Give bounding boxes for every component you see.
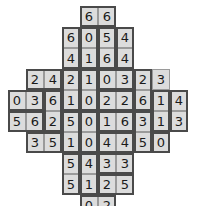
domino-piece xyxy=(98,174,134,195)
domino-piece xyxy=(80,111,98,153)
domino-piece xyxy=(98,153,134,174)
domino-piece xyxy=(62,69,80,111)
domino-piece xyxy=(98,132,134,153)
domino-puzzle: 6660544164242103230361022614562501631335… xyxy=(0,0,199,206)
domino-piece xyxy=(170,90,188,132)
domino-piece xyxy=(152,132,170,153)
domino-piece xyxy=(62,153,80,195)
domino-piece xyxy=(80,27,98,69)
domino-piece xyxy=(80,69,98,111)
domino-piece xyxy=(116,27,134,69)
domino-piece xyxy=(152,90,170,132)
domino-piece xyxy=(80,153,98,195)
domino-piece xyxy=(8,90,44,111)
domino-piece xyxy=(98,27,116,69)
domino-piece xyxy=(98,111,134,132)
domino-piece xyxy=(134,69,152,111)
domino-piece xyxy=(44,90,62,132)
domino-piece xyxy=(26,69,62,90)
domino-piece xyxy=(80,6,116,27)
domino-piece xyxy=(134,111,152,153)
domino-piece xyxy=(62,27,80,69)
domino-piece xyxy=(98,90,134,111)
domino-piece xyxy=(62,111,80,153)
puzzle-dominoes-layer xyxy=(0,0,199,206)
domino-piece xyxy=(8,111,44,132)
domino-piece xyxy=(80,195,116,206)
domino-piece xyxy=(26,132,62,153)
domino-piece xyxy=(98,69,134,90)
